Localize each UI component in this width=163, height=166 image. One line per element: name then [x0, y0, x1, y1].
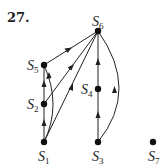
label-s1: S1 [38, 149, 50, 166]
label-s2: S2 [27, 97, 39, 114]
label-s5: S5 [27, 58, 39, 75]
label-s3: S3 [92, 149, 104, 166]
arrow-s5-s6-icon [65, 48, 73, 54]
label-s7: S7 [148, 149, 160, 166]
label-s6: S6 [92, 14, 104, 31]
label-s4: S4 [81, 82, 93, 99]
arrow-s2-s6-icon [68, 64, 75, 71]
arrow-s3-s6-icon [112, 86, 117, 93]
node-s1 [41, 139, 47, 145]
directed-graph: 27. [0, 0, 163, 166]
node-s3 [95, 139, 101, 145]
node-s5 [41, 62, 47, 68]
node-s4 [95, 86, 101, 92]
arrow-s1-s2-icon [42, 119, 47, 126]
arrow-s3-s4-icon [96, 111, 101, 118]
node-s7 [150, 139, 156, 145]
problem-number: 27. [7, 10, 30, 25]
node-s2 [41, 101, 47, 107]
arrow-s4-s6-icon [96, 58, 101, 65]
edge-s3-s6 [98, 31, 119, 142]
arrow-s2-s5-icon [42, 80, 47, 87]
